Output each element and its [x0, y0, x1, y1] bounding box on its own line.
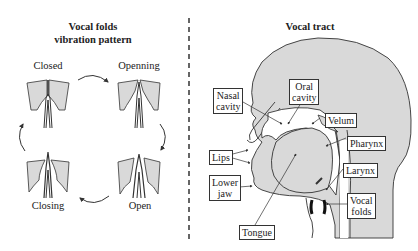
state-label-closed: Closed [28, 60, 68, 71]
arrow-open-to-closing [80, 196, 109, 203]
closed-folds-icon [27, 80, 69, 128]
label-oral-cavity: Oralcavity [289, 79, 319, 105]
arrow-closing-to-closed [19, 124, 25, 151]
label-larynx: Larynx [343, 163, 378, 178]
opening-folds-icon [118, 80, 160, 128]
label-lips: Lips [209, 150, 233, 165]
label-vocal-folds: Vocalfolds [347, 193, 376, 219]
label-lower-jaw: Lowerjaw [209, 175, 241, 201]
head-profile-icon [247, 38, 411, 238]
open-folds-icon [118, 154, 160, 198]
closing-folds-icon [27, 152, 69, 198]
state-label-closing: Closing [25, 200, 71, 211]
label-pharynx: Pharynx [347, 136, 386, 151]
arrow-opening-to-open [160, 124, 165, 150]
label-tongue: Tongue [239, 225, 275, 240]
vibration-pattern-title: Vocal folds vibration pattern [48, 20, 138, 46]
arrow-closed-to-opening [78, 75, 108, 82]
title-line-1: Vocal folds [48, 20, 138, 33]
state-label-opening: Openning [112, 60, 166, 71]
state-label-open: Open [120, 200, 160, 211]
label-velum: Velum [325, 113, 357, 128]
label-nasal-cavity: Nasalcavity [213, 88, 243, 114]
title-line-2: vibration pattern [48, 33, 138, 46]
vocal-tract-title: Vocal tract [270, 20, 350, 33]
